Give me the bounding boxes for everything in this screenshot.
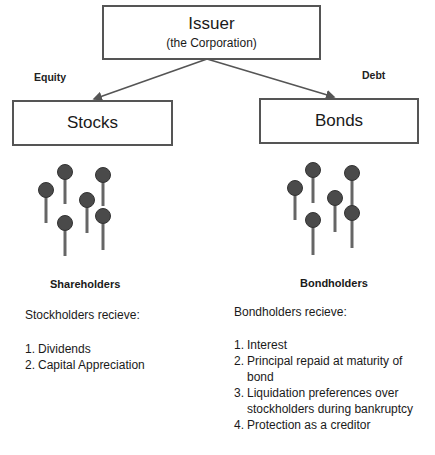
pin-icon <box>96 209 111 251</box>
pin-icon <box>58 165 73 205</box>
pin-icon <box>306 213 321 256</box>
list-item: 1.Dividends <box>25 341 205 357</box>
pin-icon <box>96 168 111 207</box>
list-item: 1.Interest <box>234 337 420 353</box>
shareholders-pin-icons <box>39 165 111 257</box>
bondholders-title: Bondholders <box>300 277 368 289</box>
list-item: 2.Principal repaid at maturity of bond <box>234 353 420 385</box>
list-item: 2.Capital Appreciation <box>25 357 205 373</box>
pin-icon <box>80 193 95 234</box>
list-item: 4.Protection as a creditor <box>234 417 420 433</box>
bondholders-intro: Bondholders recieve: <box>234 305 347 319</box>
pin-icon <box>328 191 343 233</box>
list-item: 3.Liquidation preferences over stockhold… <box>234 385 420 417</box>
pin-icon <box>345 206 360 249</box>
bondholder-benefits-list: 1.Interest 2.Principal repaid at maturit… <box>234 337 420 433</box>
stockholders-intro: Stockholders recieve: <box>25 308 140 322</box>
pin-icon <box>39 183 54 224</box>
pin-icon <box>306 163 321 204</box>
pin-icon <box>288 181 303 221</box>
pin-icon <box>58 216 73 257</box>
shareholders-title: Shareholders <box>50 278 120 290</box>
stockholder-benefits-list: 1.Dividends 2.Capital Appreciation <box>25 341 205 373</box>
bondholders-pin-icons <box>288 163 360 256</box>
pin-icon <box>345 166 360 207</box>
